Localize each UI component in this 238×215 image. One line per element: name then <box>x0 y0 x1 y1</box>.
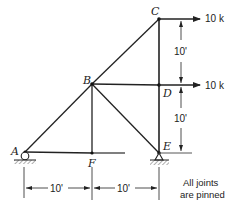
load-label-C: 10 k <box>205 13 225 24</box>
pin-triangle-icon <box>155 153 163 160</box>
member-AB <box>25 84 92 152</box>
truss-members <box>25 19 159 153</box>
truss-diagram: 10 k 10 k 10' 10' 10' 10' A B C D E F Al… <box>0 0 238 215</box>
dim-label-FE: 10' <box>117 183 130 194</box>
member-BD <box>92 84 159 85</box>
joint-label-A: A <box>10 145 19 158</box>
note-line-1: All joints <box>183 177 219 188</box>
member-AF <box>25 152 92 153</box>
joint-label-C: C <box>151 5 160 18</box>
loads: 10 k 10 k <box>159 13 225 91</box>
load-label-D: 10 k <box>205 80 225 91</box>
roller-icon <box>21 152 29 160</box>
horizontal-dimensions <box>24 167 159 200</box>
dim-label-AF: 10' <box>50 183 63 194</box>
joint-label-D: D <box>162 87 172 100</box>
joint-label-F: F <box>87 157 96 170</box>
member-BC <box>92 19 159 84</box>
dim-label-CD: 10' <box>174 46 187 57</box>
pin-support-E <box>150 153 169 165</box>
joint-label-B: B <box>82 74 91 87</box>
member-BE <box>92 84 159 153</box>
joint-F-dot <box>90 151 93 154</box>
joint-label-E: E <box>162 140 171 153</box>
note-line-2: are pinned <box>180 189 225 200</box>
ground-hatch-A <box>14 160 36 164</box>
ground-hatch-E <box>150 160 169 165</box>
dim-label-DE: 10' <box>174 113 187 124</box>
